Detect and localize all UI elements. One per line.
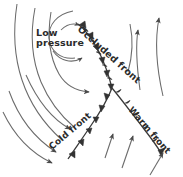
warm-symbol-semicircle xyxy=(125,100,130,103)
low-pressure-label-line2: pressure xyxy=(36,37,84,48)
diagram-canvas: Low pressure Occluded front Cold front W… xyxy=(0,0,183,177)
streamline-lower-left-b xyxy=(3,112,52,163)
warm-symbol-semicircle xyxy=(116,89,121,92)
warm-sector-arrow-2 xyxy=(122,136,133,168)
streamline-left-outer xyxy=(15,4,62,140)
streamline-right-outer xyxy=(156,18,163,96)
streamline-lower-left-c xyxy=(26,75,70,129)
occluded-front-label: Occluded front xyxy=(76,23,144,85)
occluded-symbol-semicircle xyxy=(102,65,107,67)
spiral-top-arrow xyxy=(61,24,79,30)
weather-front-diagram: Low pressure Occluded front Cold front W… xyxy=(0,0,183,177)
warm-front-label: Warm front xyxy=(126,105,173,156)
warm-sector-arrow-3 xyxy=(150,153,163,175)
spiral-inner-arc-arrow xyxy=(53,51,82,61)
warm-sector-arrow-1 xyxy=(105,134,113,158)
